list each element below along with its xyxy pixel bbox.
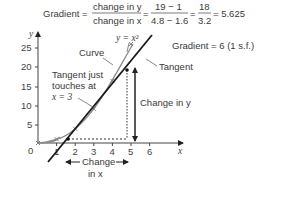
y-tick-20: 20 <box>21 61 32 72</box>
y-tick-5: 5 <box>27 119 32 130</box>
svg-text:=: = <box>190 8 196 19</box>
y-tick-10: 10 <box>21 100 32 111</box>
gradient-note: Gradient = 6 (1 s.f.) <box>172 40 254 51</box>
curve-equation: y = x² <box>115 33 139 43</box>
tangent-point-high <box>125 68 129 72</box>
x-axis-label: x <box>177 146 183 156</box>
frac2-numerator: 19 − 1 <box>155 1 182 12</box>
tangent-note-line2: touches at <box>52 80 96 91</box>
frac1-denominator: change in x <box>93 15 142 26</box>
formula-prefix: Gradient = <box>43 8 88 19</box>
change-in-y-label: Change in y <box>140 97 191 108</box>
tangent-label: Tangent <box>159 61 193 72</box>
curve-label: Curve <box>79 47 104 58</box>
formula-result: = 5.625 <box>213 8 245 19</box>
frac2-denominator: 4.8 − 1.6 <box>151 15 188 26</box>
y-tick-15: 15 <box>21 81 32 92</box>
origin-label: 0 <box>28 145 33 156</box>
gradient-formula: Gradient = change in y change in x = 19 … <box>43 1 245 26</box>
y-axis-label: y <box>28 29 34 39</box>
frac1-numerator: change in y <box>93 1 142 12</box>
diagram-canvas: Gradient = change in y change in x = 19 … <box>0 0 292 198</box>
x-tick-2: 2 <box>73 146 78 157</box>
y-tick-25: 25 <box>21 42 32 53</box>
x-tick-6: 6 <box>147 146 152 157</box>
tangent-label-leader <box>146 59 157 66</box>
x-ticks: 1 2 3 4 5 6 <box>54 143 152 157</box>
tangent-point-low <box>66 137 70 141</box>
tangent-note-line3: x = 3 <box>51 92 72 102</box>
x-tick-5: 5 <box>128 146 133 157</box>
frac3-numerator: 18 <box>199 1 210 12</box>
frac3-denominator: 3.2 <box>198 15 211 26</box>
change-in-x-label-line2: in x <box>88 168 103 179</box>
tangent-note-line1: Tangent just <box>52 69 104 80</box>
curve-label-leader <box>103 58 113 65</box>
y-ticks: 5 10 15 20 25 <box>21 42 38 130</box>
tangent-note-leader <box>78 98 93 107</box>
svg-text:=: = <box>143 8 149 19</box>
change-in-x-label-line1: Change <box>82 156 115 167</box>
